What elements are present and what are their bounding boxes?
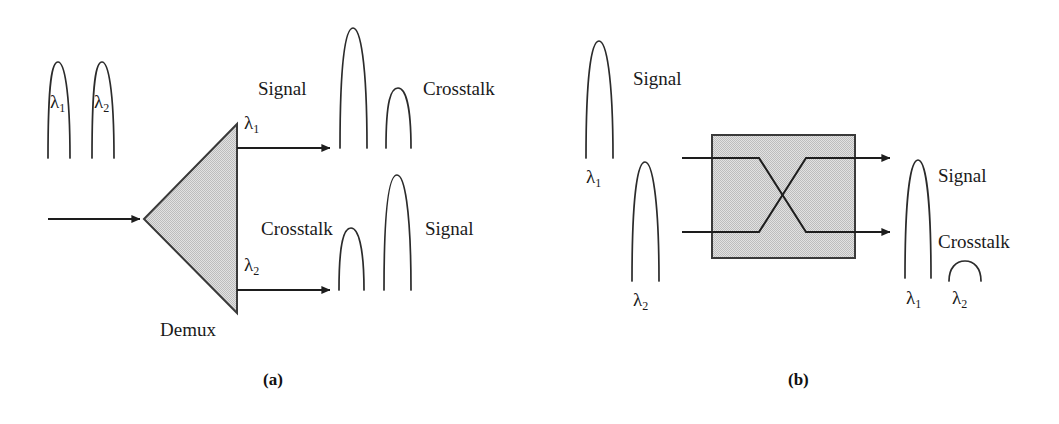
- label-b-input-signal: Signal: [633, 69, 682, 88]
- figure-canvas: λ1 λ2 λ1 λ2 Signal Crosstalk Crosstalk S…: [0, 0, 1059, 424]
- demux-triangle: [144, 124, 237, 313]
- label-b-input-lambda1: λ1: [586, 167, 601, 186]
- label-a-port1-signal: Signal: [258, 79, 307, 98]
- pulse-a-port1-signal: [340, 28, 367, 148]
- pulse-input-b-lambda2: [632, 162, 659, 281]
- label-a-port2-crosstalk: Crosstalk: [261, 219, 333, 238]
- label-b-output-lambda2: λ2: [952, 288, 967, 307]
- label-input-a-lambda1: λ1: [50, 92, 65, 111]
- label-b-output-lambda1: λ1: [906, 288, 921, 307]
- pulse-input-b-lambda1: [586, 41, 613, 158]
- pulse-a-port1-crosstalk: [386, 88, 411, 148]
- panel-caption-b: (b): [788, 371, 809, 388]
- pulse-b-output-crosstalk: [949, 261, 981, 281]
- pulse-a-port2-signal: [384, 175, 411, 290]
- label-input-a-lambda2: λ2: [94, 92, 109, 111]
- pulse-b-output-signal: [905, 160, 931, 278]
- label-a-port1-crosstalk: Crosstalk: [423, 79, 495, 98]
- label-b-output-signal: Signal: [938, 166, 987, 185]
- pulse-a-port2-crosstalk: [339, 228, 364, 290]
- label-port-a-lambda2: λ2: [244, 255, 259, 274]
- label-b-output-crosstalk: Crosstalk: [938, 232, 1010, 251]
- figure-vector-layer: [0, 0, 1059, 424]
- panel-caption-a: (a): [263, 371, 283, 388]
- label-demux: Demux: [160, 320, 216, 339]
- label-b-input-lambda2: λ2: [633, 290, 648, 309]
- label-a-port2-signal: Signal: [425, 219, 474, 238]
- label-port-a-lambda1: λ1: [244, 113, 259, 132]
